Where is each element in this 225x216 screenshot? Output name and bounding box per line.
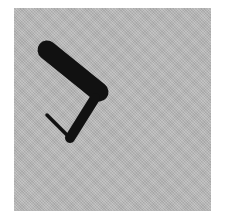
thick-bar — [47, 50, 99, 92]
thin-line — [47, 115, 70, 138]
lower-bar — [70, 98, 95, 138]
black-figure — [0, 0, 225, 216]
